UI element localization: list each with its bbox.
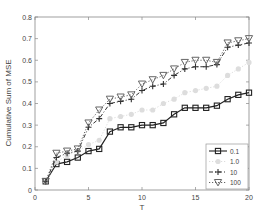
- circle-marker-icon: [107, 116, 112, 121]
- y-tick-label: 0: [28, 187, 32, 194]
- y-tick-label: 0.3: [22, 122, 32, 129]
- x-tick-label: 20: [245, 194, 253, 201]
- circle-marker-icon: [214, 84, 219, 89]
- circle-marker-icon: [86, 142, 91, 147]
- y-axis-label: Cumulative Sum of MSE: [4, 59, 13, 146]
- triangle-down-marker-icon: [149, 77, 156, 83]
- triangle-down-marker-icon: [128, 92, 135, 98]
- y-tick-label: 0.6: [22, 57, 32, 64]
- circle-marker-icon: [172, 97, 177, 102]
- plus-marker-icon: [160, 81, 166, 87]
- circle-marker-icon: [118, 114, 123, 119]
- circle-marker-icon: [161, 101, 166, 106]
- triangle-down-marker-icon: [171, 66, 178, 72]
- y-tick-label: 0.1: [22, 165, 32, 172]
- triangle-down-marker-icon: [235, 38, 242, 44]
- circle-marker-icon: [150, 107, 155, 112]
- y-tick-label: 0.7: [22, 35, 32, 42]
- y-tick-label: 0.8: [22, 14, 32, 21]
- line-chart: 0510152000.10.20.30.40.50.60.70.8 0.11.0…: [0, 0, 266, 217]
- plus-marker-icon: [96, 116, 102, 122]
- circle-marker-icon: [182, 90, 187, 95]
- legend-label: 1.0: [230, 158, 239, 165]
- circle-icon: [215, 159, 220, 164]
- circle-marker-icon: [193, 88, 198, 93]
- x-axis-label: T: [140, 203, 145, 212]
- x-tick-label: 10: [138, 194, 146, 201]
- x-tick-label: 5: [87, 194, 91, 201]
- y-tick-label: 0.2: [22, 143, 32, 150]
- circle-marker-icon: [204, 86, 209, 91]
- legend-label: 0.1: [230, 148, 239, 155]
- circle-marker-icon: [139, 107, 144, 112]
- circle-marker-icon: [225, 73, 230, 78]
- circle-marker-icon: [129, 112, 134, 117]
- y-tick-label: 0.4: [22, 100, 32, 107]
- legend-label: 100: [230, 179, 241, 186]
- x-tick-label: 0: [33, 194, 37, 201]
- circle-marker-icon: [97, 138, 102, 143]
- triangle-down-marker-icon: [53, 150, 60, 156]
- y-tick-label: 0.5: [22, 78, 32, 85]
- triangle-down-marker-icon: [85, 120, 92, 126]
- circle-marker-icon: [246, 60, 251, 65]
- triangle-down-marker-icon: [181, 59, 188, 65]
- triangle-down-marker-icon: [138, 81, 145, 87]
- circle-marker-icon: [236, 66, 241, 71]
- legend: 0.11.010100: [206, 144, 248, 189]
- triangle-down-marker-icon: [224, 40, 231, 46]
- legend-label: 10: [230, 169, 238, 176]
- x-tick-label: 15: [192, 194, 200, 201]
